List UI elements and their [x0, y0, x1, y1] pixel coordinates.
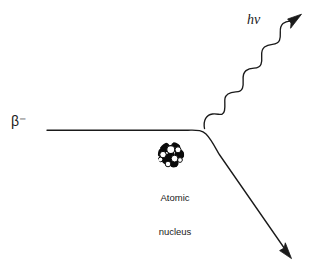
photon-energy-label: hν — [247, 12, 260, 29]
beta-arrowhead — [280, 243, 292, 259]
bremsstrahlung-diagram: β⁻ hν Atomic nucleus — [0, 0, 311, 276]
atomic-nucleus-icon — [157, 141, 186, 170]
photon-wave — [204, 14, 301, 128]
atomic-nucleus-label: Atomic nucleus — [140, 170, 210, 260]
beta-particle-label: β⁻ — [11, 113, 26, 130]
atomic-nucleus-label-line1: Atomic — [140, 192, 210, 203]
photon-wave-line — [204, 20, 295, 129]
atomic-nucleus-label-line2: nucleus — [140, 226, 210, 237]
photon-arrowhead — [288, 14, 302, 28]
